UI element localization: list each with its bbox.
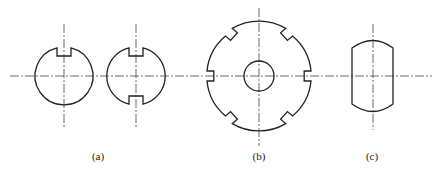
figure-canvas: (a) (b) (c) bbox=[0, 0, 442, 179]
label-b: (b) bbox=[253, 150, 266, 162]
label-a: (a) bbox=[92, 150, 104, 162]
label-c: (c) bbox=[366, 150, 378, 162]
centerlines bbox=[10, 8, 432, 146]
